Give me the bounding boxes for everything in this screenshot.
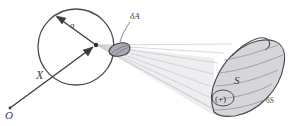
radius-label: a <box>70 20 75 30</box>
figure-root: O X a δA S (+) δS <box>0 0 294 126</box>
solid-angle-diagram: O X a δA S (+) δS <box>0 0 294 126</box>
position-vector-label: X <box>35 68 44 82</box>
patch-leader-line <box>120 22 130 42</box>
orientation-label: (+) <box>215 94 226 104</box>
apex-point <box>94 43 98 47</box>
origin-label: O <box>5 109 13 121</box>
vector-X-shaft <box>10 47 93 108</box>
sphere-patch-label: δA <box>130 11 140 21</box>
surface-element-label: δS <box>266 96 274 105</box>
surface-label: S <box>234 74 240 86</box>
vector-X <box>9 47 93 109</box>
vector-a <box>56 16 96 45</box>
vector-X-arrowhead <box>83 47 93 56</box>
